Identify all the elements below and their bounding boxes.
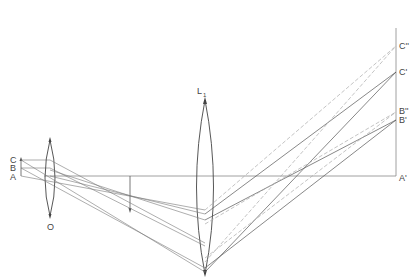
label-l: L bbox=[197, 86, 202, 96]
eyepiece-lens-l1 bbox=[197, 97, 214, 277]
rays-object-side bbox=[21, 160, 205, 272]
rays-image-side-dashed bbox=[205, 46, 396, 262]
label-a: A bbox=[10, 172, 16, 182]
rays-image-side-solid bbox=[205, 72, 396, 272]
label-a-prime: A' bbox=[399, 173, 407, 183]
label-l-subscript: 1 bbox=[203, 92, 207, 98]
label-c-double-prime: C'' bbox=[399, 41, 409, 51]
label-b-prime: B' bbox=[399, 115, 407, 125]
label-c-prime: C' bbox=[399, 67, 407, 77]
optical-ray-diagram: C B A O L 1 C'' C' B'' B' A' bbox=[0, 0, 419, 280]
label-o: O bbox=[47, 222, 54, 232]
